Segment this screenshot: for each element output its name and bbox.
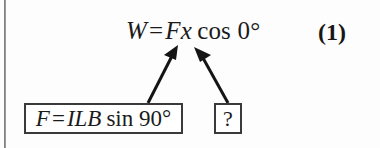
distance-symbol: x bbox=[181, 17, 192, 44]
force-box-ilb-term: ILB bbox=[67, 106, 102, 131]
force-expression-box: F=ILBsin 90° bbox=[24, 103, 183, 134]
sine-angle: 90° bbox=[139, 106, 171, 131]
equals-sign: = bbox=[147, 17, 165, 44]
figure-canvas: W=Fxcos 0° (1) F=ILBsin 90° ? bbox=[0, 0, 380, 148]
force-expression-text: F=ILBsin 90° bbox=[36, 106, 171, 132]
unknown-term-text: ? bbox=[223, 106, 233, 132]
cosine-angle: 0° bbox=[238, 17, 261, 44]
scan-gutter-line bbox=[4, 0, 6, 148]
force-symbol: F bbox=[165, 17, 180, 44]
work-symbol: W bbox=[126, 17, 147, 44]
work-equation: W=Fxcos 0° bbox=[126, 16, 260, 46]
sine-function: sin bbox=[101, 106, 133, 131]
force-box-force-symbol: F bbox=[36, 106, 50, 131]
equation-number: (1) bbox=[318, 17, 346, 47]
force-box-equals-sign: = bbox=[50, 106, 67, 131]
arrow-unknown-to-equation bbox=[194, 47, 228, 103]
cosine-function: cos bbox=[192, 17, 231, 44]
unknown-term-box: ? bbox=[214, 103, 242, 134]
arrow-force-to-equation bbox=[148, 45, 178, 103]
